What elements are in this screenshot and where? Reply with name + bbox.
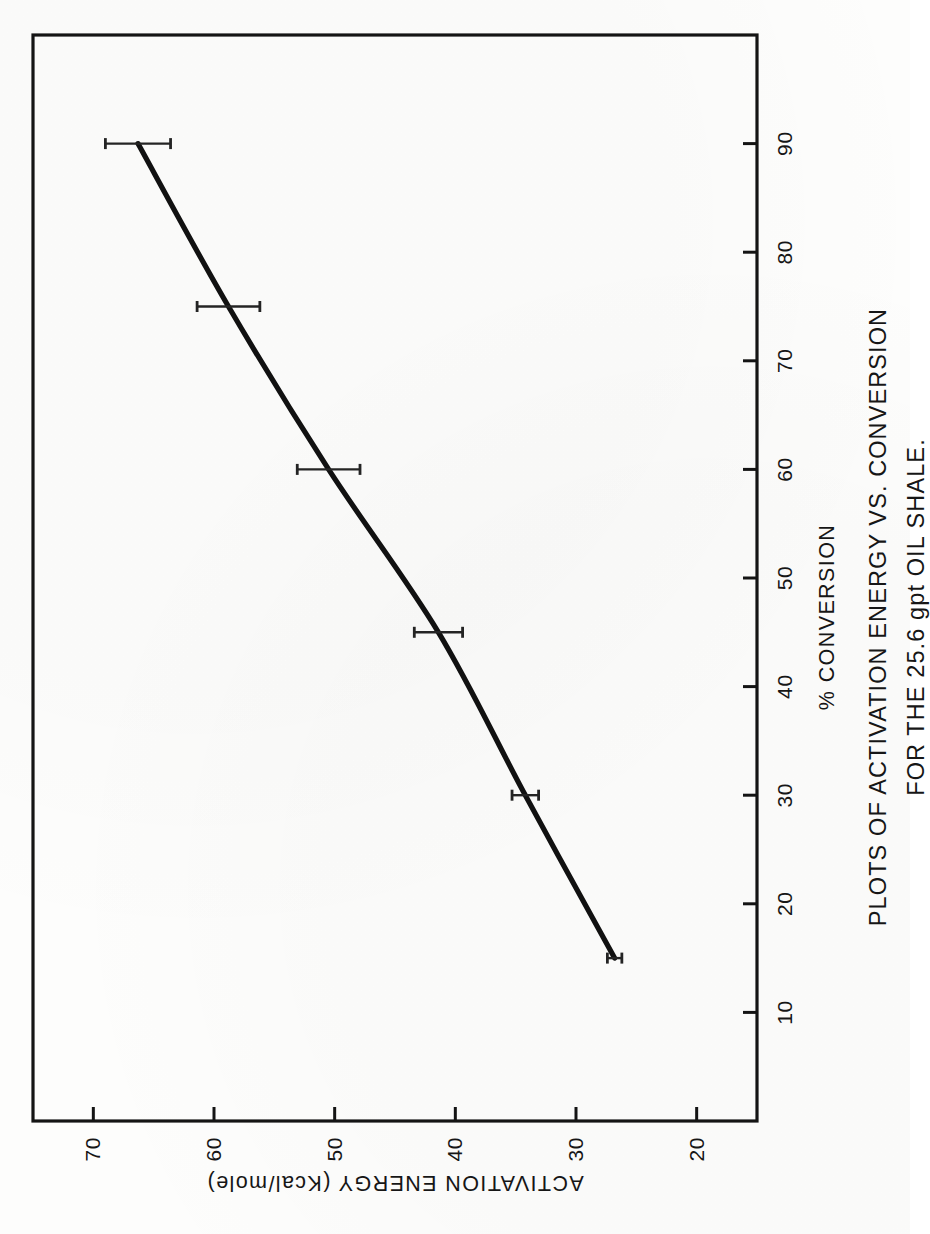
x-tick-label: 40 [773,674,797,699]
x-axis-title: % CONVERSION [815,524,840,710]
axes-frame [33,35,757,1121]
y-tick-label: 60 [202,1137,226,1173]
x-tick-label: 60 [773,457,797,482]
x-tick-label: 80 [773,240,797,265]
y-tick-label: 40 [443,1137,467,1173]
x-tick-label: 50 [773,566,797,591]
y-tick-label: 70 [81,1137,105,1173]
y-axis-title: ACTIVATION ENERGY (Kcal/mole) [206,1170,584,1195]
figure-caption-line-2: FOR THE 25.6 gpt OIL SHALE. [903,438,930,796]
x-tick-label: 10 [773,1000,797,1025]
y-axis-ticks [93,1107,696,1121]
y-tick-label: 50 [323,1137,347,1173]
x-tick-label: 90 [773,131,797,156]
data-series-line [138,144,615,959]
error-bars [105,138,621,964]
x-tick-label: 70 [773,349,797,374]
x-tick-label: 20 [773,892,797,917]
y-tick-label: 30 [564,1137,588,1173]
x-tick-label: 30 [773,783,797,808]
figure-caption-line-1: PLOTS OF ACTIVATION ENERGY VS. CONVERSIO… [865,308,892,926]
y-tick-label: 20 [685,1137,709,1173]
x-axis-ticks [743,144,757,1013]
